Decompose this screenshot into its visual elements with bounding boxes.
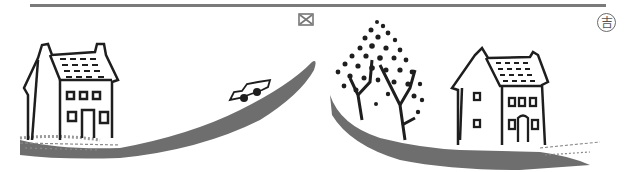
illustration-scene — [0, 0, 633, 172]
left-house-roof-tiles — [60, 58, 104, 78]
road-left — [20, 61, 316, 159]
right-house-roof-tiles — [496, 62, 535, 82]
left-house-windows — [67, 92, 108, 138]
right-house-windows — [474, 93, 538, 142]
